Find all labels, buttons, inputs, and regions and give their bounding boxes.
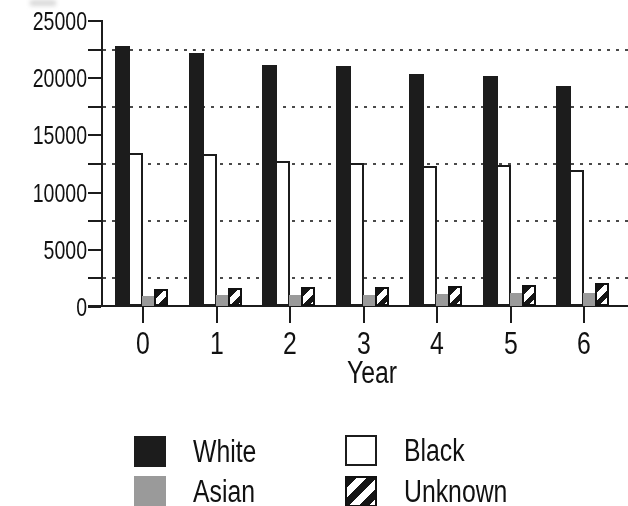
y-tick-label-10000: 10000 — [19, 178, 87, 208]
y-tick-label-25000: 25000 — [19, 6, 87, 36]
bar-unknown-year-2 — [301, 287, 315, 306]
legend-label-asian: Asian — [193, 476, 255, 506]
y-tick-label-5000: 5000 — [19, 235, 87, 265]
bar-white-year-3 — [336, 66, 351, 306]
x-tick-1 — [216, 306, 218, 323]
x-tick-label-0: 0 — [111, 328, 175, 360]
y-tick-25000 — [88, 20, 101, 22]
x-tick-3 — [363, 306, 365, 323]
bar-unknown-year-0 — [154, 289, 168, 306]
y-tick-label-0: 0 — [19, 292, 87, 322]
legend-swatch-white — [134, 436, 166, 467]
bar-white-year-2 — [262, 65, 277, 306]
gridline-17500 — [103, 106, 628, 108]
bar-unknown-year-1 — [228, 288, 242, 306]
y-tick-20000 — [88, 77, 101, 79]
bar-white-year-5 — [483, 76, 498, 306]
legend-label-white: White — [193, 436, 256, 467]
x-tick-label-6: 6 — [552, 328, 616, 360]
legend-swatch-asian — [134, 476, 166, 506]
legend-swatch-unknown — [345, 476, 377, 506]
gridline-12500 — [103, 163, 628, 165]
gridline-7500 — [103, 220, 628, 222]
x-tick-label-4: 4 — [405, 328, 469, 360]
gridline-22500 — [103, 49, 628, 51]
x-tick-0 — [142, 306, 144, 323]
y-tick-0 — [88, 306, 101, 308]
bar-chart: 05000100001500020000250000123456 Year Wh… — [0, 0, 628, 506]
bar-white-year-0 — [115, 46, 130, 306]
y-tick-5000 — [88, 249, 101, 251]
x-tick-4 — [436, 306, 438, 323]
x-tick-label-5: 5 — [479, 328, 543, 360]
y-tick-10000 — [88, 192, 101, 194]
x-tick-2 — [289, 306, 291, 323]
bar-white-year-4 — [409, 74, 424, 306]
x-tick-label-2: 2 — [258, 328, 322, 360]
y-tick-15000 — [88, 134, 101, 136]
bar-unknown-year-3 — [375, 287, 389, 306]
bar-white-year-1 — [189, 53, 204, 306]
y-tick-label-15000: 15000 — [19, 120, 87, 150]
y-axis-line — [101, 20, 103, 306]
bar-unknown-year-4 — [448, 286, 462, 306]
y-tick-17500 — [88, 106, 101, 108]
gridline-2500 — [103, 277, 628, 279]
y-tick-label-20000: 20000 — [19, 63, 87, 93]
x-tick-6 — [583, 306, 585, 323]
y-tick-12500 — [88, 163, 101, 165]
plot-area: 05000100001500020000250000123456 — [0, 0, 628, 400]
y-tick-7500 — [88, 220, 101, 222]
y-tick-2500 — [88, 277, 101, 279]
legend-label-unknown: Unknown — [404, 476, 507, 506]
bar-unknown-year-5 — [522, 285, 536, 306]
y-tick-22500 — [88, 49, 101, 51]
legend-label-black: Black — [404, 435, 465, 466]
x-tick-5 — [510, 306, 512, 323]
x-tick-label-1: 1 — [185, 328, 249, 360]
legend-swatch-black — [345, 435, 377, 466]
bar-unknown-year-6 — [595, 283, 609, 306]
x-axis-title: Year — [324, 357, 420, 389]
bar-white-year-6 — [556, 86, 571, 306]
